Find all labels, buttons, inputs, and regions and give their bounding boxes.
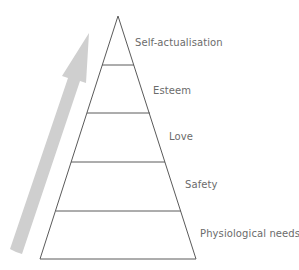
level-label-safety: Safety: [185, 179, 218, 191]
maslow-pyramid-diagram: Self-actualisation Esteem Love Safety Ph…: [0, 0, 299, 270]
level-label-self-actualisation: Self-actualisation: [135, 37, 223, 49]
level-label-physiological-needs: Physiological needs: [200, 228, 299, 240]
level-label-love: Love: [169, 131, 193, 143]
level-label-esteem: Esteem: [153, 85, 191, 97]
